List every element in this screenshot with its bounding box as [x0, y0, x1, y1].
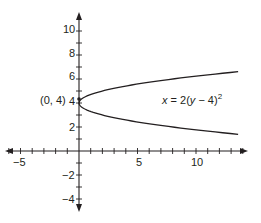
y-axis-up-arrow-icon: [76, 12, 82, 20]
parabola-chart: −5 5 10 10 8 6 4 2 −2 −4 (0, 4) x = 2(y …: [0, 0, 261, 223]
y-tick-label-6: 6: [69, 70, 75, 82]
y-axis: [76, 12, 82, 212]
equation-exponent: 2: [218, 92, 223, 101]
equation-mid: = 2(: [168, 94, 191, 106]
x-tick-label-10: 10: [191, 156, 203, 168]
y-axis-down-arrow-icon: [76, 204, 82, 212]
x-tick-label-5: 5: [136, 156, 142, 168]
x-tick-label-neg5: −5: [13, 156, 26, 168]
x-axis-ticks: [9, 148, 243, 154]
y-tick-label-8: 8: [69, 47, 75, 59]
vertex-label: (0, 4): [40, 94, 66, 106]
equation-label: x = 2(y − 4)2: [161, 92, 223, 106]
y-tick-label-4: 4: [69, 95, 75, 107]
y-tick-label-2: 2: [69, 121, 75, 133]
x-axis: [5, 148, 248, 154]
vertex-point: [77, 97, 81, 101]
y-tick-label-neg4: −4: [62, 193, 75, 205]
y-tick-label-10: 10: [63, 23, 75, 35]
y-tick-label-neg2: −2: [62, 169, 75, 181]
equation-end: − 4): [195, 94, 217, 106]
x-axis-right-arrow-icon: [240, 148, 248, 154]
